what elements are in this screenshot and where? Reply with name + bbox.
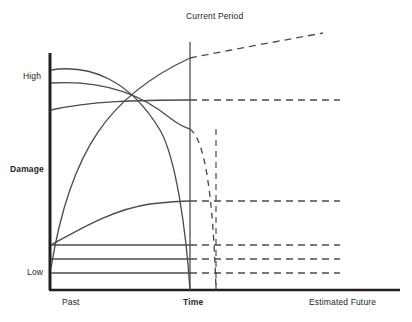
chart-plot-area [0,0,412,322]
curve-rising-trajectory-dashed [190,33,323,58]
damage-over-time-chart: Current Period High Low Damage Past Time… [0,0,412,322]
x-axis-tick-estimated-future: Estimated Future [309,297,376,307]
curve-rising-trajectory-solid [51,58,190,268]
y-axis-tick-high: High [23,71,41,81]
y-axis-tick-low: Low [27,267,43,277]
x-axis-title: Time [183,297,203,307]
annotation-current-period: Current Period [186,11,243,21]
curve-low-rising-plateau-solid [51,201,190,245]
curve-second-high-decline-dashed [190,129,216,290]
x-axis-tick-past: Past [62,297,80,307]
y-axis-title: Damage [10,164,44,174]
